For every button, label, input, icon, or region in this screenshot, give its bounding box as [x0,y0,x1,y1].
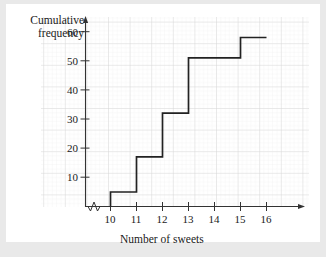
y-tick-label-30: 30 [56,113,78,125]
x-tick-label-16: 16 [256,213,276,225]
x-tick-label-10: 10 [100,213,120,225]
x-tick-label-14: 14 [204,213,224,225]
y-tick-label-40: 40 [56,84,78,96]
x-tick-label-12: 12 [152,213,172,225]
y-tick-label-50: 50 [56,55,78,67]
y-tick-label-20: 20 [56,142,78,154]
x-axis-title: Number of sweets [120,233,204,245]
y-tick-label-60: 60 [56,26,78,38]
x-tick-label-13: 13 [178,213,198,225]
x-tick-label-11: 11 [126,213,146,225]
chart-gridlines [41,17,309,207]
x-tick-label-15: 15 [230,213,250,225]
y-tick-label-10: 10 [56,171,78,183]
chart-page: Cumulative frequency Number of sweets 10… [0,0,326,257]
